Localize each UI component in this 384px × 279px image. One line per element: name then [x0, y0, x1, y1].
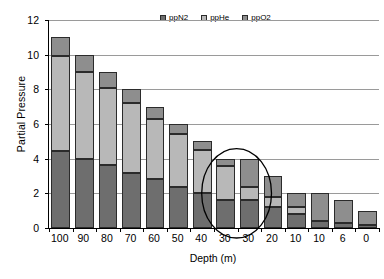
- bar-segment-pphe[interactable]: [287, 207, 306, 214]
- bar-segment-ppo2[interactable]: [99, 72, 118, 88]
- x-tick-label: 40: [195, 232, 207, 244]
- x-tick-mark: [261, 228, 262, 232]
- x-tick-mark: [285, 228, 286, 232]
- x-tick-label: 100: [51, 232, 69, 244]
- bar-segment-ppn2[interactable]: [99, 165, 118, 228]
- x-tick-mark: [120, 228, 121, 232]
- x-tick-mark: [73, 228, 74, 232]
- bar-segment-ppn2[interactable]: [216, 200, 235, 228]
- bar-segment-ppo2[interactable]: [358, 211, 377, 225]
- bar-group[interactable]: [51, 20, 70, 228]
- x-axis-title: Depth (m): [48, 252, 378, 264]
- x-tick-label: 70: [125, 232, 137, 244]
- x-tick-mark: [332, 228, 333, 232]
- bar-segment-ppo2[interactable]: [311, 193, 330, 221]
- bar-group[interactable]: [216, 20, 235, 228]
- bar-segment-pphe[interactable]: [216, 166, 235, 201]
- x-tick-mark: [379, 228, 380, 232]
- x-tick-mark: [143, 228, 144, 232]
- bar-group[interactable]: [311, 20, 330, 228]
- x-tick-label: 10: [313, 232, 325, 244]
- y-tick-label: 2: [0, 187, 39, 199]
- bar-group[interactable]: [193, 20, 212, 228]
- y-tick-label: 0: [0, 222, 39, 234]
- bar-segment-pphe[interactable]: [51, 56, 70, 150]
- plot-area: 024681012: [48, 20, 379, 229]
- bar-segment-ppo2[interactable]: [75, 55, 94, 72]
- x-tick-mark: [49, 228, 50, 232]
- bar-segment-pphe[interactable]: [240, 187, 259, 200]
- bar-segment-ppn2[interactable]: [51, 151, 70, 228]
- bar-segment-ppo2[interactable]: [122, 89, 141, 103]
- x-tick-mark: [214, 228, 215, 232]
- x-tick-mark: [96, 228, 97, 232]
- bar-segment-ppn2[interactable]: [146, 179, 165, 228]
- bar-segment-pphe[interactable]: [99, 88, 118, 165]
- bar-group[interactable]: [122, 20, 141, 228]
- bar-segment-ppo2[interactable]: [169, 124, 188, 134]
- bar-segment-pphe[interactable]: [169, 134, 188, 187]
- bar-segment-ppo2[interactable]: [193, 141, 212, 150]
- x-tick-mark: [308, 228, 309, 232]
- y-tick-label: 4: [0, 153, 39, 165]
- x-tick-label: 80: [101, 232, 113, 244]
- x-tick-label: 60: [148, 232, 160, 244]
- bar-segment-ppo2[interactable]: [146, 107, 165, 119]
- y-tick-label: 8: [0, 83, 39, 95]
- bar-segment-ppn2[interactable]: [240, 200, 259, 228]
- y-tick-label: 12: [0, 14, 39, 26]
- bar-group[interactable]: [264, 20, 283, 228]
- bar-group[interactable]: [99, 20, 118, 228]
- bar-segment-ppn2[interactable]: [311, 221, 330, 228]
- x-tick-label: 90: [78, 232, 90, 244]
- bar-segment-ppn2[interactable]: [358, 225, 377, 228]
- y-tick-label: 10: [0, 49, 39, 61]
- bar-group[interactable]: [75, 20, 94, 228]
- y-tick-label: 6: [0, 118, 39, 130]
- bar-segment-ppn2[interactable]: [122, 173, 141, 228]
- bar-segment-ppn2[interactable]: [193, 193, 212, 228]
- bar-group[interactable]: [146, 20, 165, 228]
- bar-segment-ppn2[interactable]: [334, 223, 353, 228]
- bar-segment-ppn2[interactable]: [169, 187, 188, 228]
- x-tick-mark: [167, 228, 168, 232]
- bar-segment-pphe[interactable]: [193, 150, 212, 193]
- bar-segment-ppo2[interactable]: [240, 159, 259, 188]
- bar-segment-ppn2[interactable]: [287, 214, 306, 228]
- x-tick-mark: [355, 228, 356, 232]
- x-tick-label: 6: [340, 232, 346, 244]
- bar-segment-ppn2[interactable]: [264, 207, 283, 228]
- x-tick-label: 30: [243, 232, 255, 244]
- x-tick-mark: [238, 228, 239, 232]
- bar-segment-ppo2[interactable]: [264, 176, 283, 197]
- bar-segment-ppo2[interactable]: [334, 200, 353, 223]
- partial-pressure-stacked-bar-chart: Partial Pressure ppN2ppHeppO2 024681012 …: [0, 0, 384, 279]
- x-tick-label: 0: [363, 232, 369, 244]
- bar-segment-ppo2[interactable]: [287, 193, 306, 207]
- bar-group[interactable]: [334, 20, 353, 228]
- bar-group[interactable]: [169, 20, 188, 228]
- bars-layer: [49, 20, 379, 228]
- x-tick-label: 50: [172, 232, 184, 244]
- bar-group[interactable]: [287, 20, 306, 228]
- bar-segment-ppn2[interactable]: [75, 159, 94, 228]
- bar-segment-pphe[interactable]: [264, 197, 283, 207]
- bar-segment-ppo2[interactable]: [216, 159, 235, 166]
- x-tick-mark: [190, 228, 191, 232]
- x-tick-label: 10: [290, 232, 302, 244]
- bar-segment-pphe[interactable]: [75, 72, 94, 159]
- bar-segment-pphe[interactable]: [122, 103, 141, 172]
- x-tick-label: 20: [266, 232, 278, 244]
- bar-segment-pphe[interactable]: [146, 119, 165, 180]
- bar-group[interactable]: [358, 20, 377, 228]
- x-tick-label: 30: [219, 232, 231, 244]
- bar-segment-ppo2[interactable]: [51, 37, 70, 56]
- bar-group[interactable]: [240, 20, 259, 228]
